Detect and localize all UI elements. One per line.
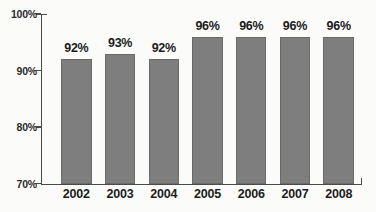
bar[interactable] <box>236 37 267 184</box>
bar-value-label: 96% <box>280 19 311 33</box>
bar-group[interactable]: 96%2008 <box>323 0 354 212</box>
bar-group[interactable]: 96%2007 <box>280 0 311 212</box>
bar-group[interactable]: 92%2002 <box>61 0 92 212</box>
bar-group[interactable]: 96%2005 <box>192 0 223 212</box>
bars-layer: 92%200293%200392%200496%200596%200696%20… <box>0 0 376 212</box>
bar-value-label: 93% <box>105 36 136 50</box>
bar-chart: 70%80%90%100% 92%200293%200392%200496%20… <box>0 0 376 212</box>
bar[interactable] <box>280 37 311 184</box>
x-axis-category-label: 2007 <box>280 187 311 201</box>
bar[interactable] <box>192 37 223 184</box>
bar-value-label: 96% <box>323 19 354 33</box>
x-axis-category-label: 2002 <box>61 187 92 201</box>
x-axis-category-label: 2004 <box>149 187 180 201</box>
bar[interactable] <box>61 59 92 183</box>
bar-group[interactable]: 93%2003 <box>105 0 136 212</box>
bar-group[interactable]: 96%2006 <box>236 0 267 212</box>
x-axis-category-label: 2008 <box>323 187 354 201</box>
bar-value-label: 92% <box>61 41 92 55</box>
bar-group[interactable]: 92%2004 <box>149 0 180 212</box>
x-axis-category-label: 2003 <box>105 187 136 201</box>
bar-value-label: 96% <box>236 19 267 33</box>
bar-value-label: 96% <box>192 19 223 33</box>
x-axis-category-label: 2006 <box>236 187 267 201</box>
bar[interactable] <box>323 37 354 184</box>
bar-value-label: 92% <box>149 41 180 55</box>
bar[interactable] <box>149 59 180 183</box>
bar[interactable] <box>105 54 136 184</box>
x-axis-category-label: 2005 <box>192 187 223 201</box>
